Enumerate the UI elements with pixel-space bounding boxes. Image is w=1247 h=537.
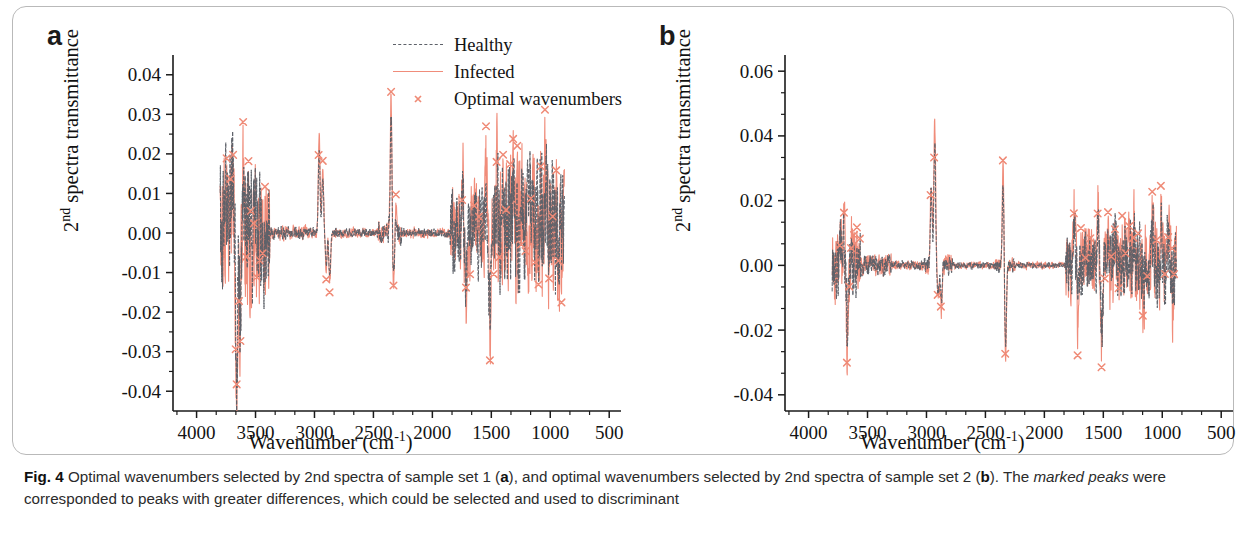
panel-a: a 0.040.030.020.010.00-0.01-0.02-0.03-0.… <box>25 13 636 456</box>
svg-text:-0.01: -0.01 <box>121 262 161 283</box>
panel-b-y-axis-title: 2nd spectra transmittance <box>672 0 695 281</box>
svg-text:-0.02: -0.02 <box>733 320 773 341</box>
svg-text:0.00: 0.00 <box>740 255 773 276</box>
svg-text:0.02: 0.02 <box>128 143 161 164</box>
dashed-line-key <box>393 38 443 52</box>
panel-b-plot: 0.060.040.020.00-0.02-0.0440003500300025… <box>637 13 1247 456</box>
cross-marker-icon <box>414 95 422 103</box>
legend-label-optimal-wavenumbers: Optimal wavenumbers <box>454 90 622 108</box>
svg-text:0.00: 0.00 <box>128 223 161 244</box>
legend-item-infected: Infected <box>393 62 622 82</box>
legend-label-healthy: Healthy <box>454 36 513 54</box>
panel-b-x-axis-title: Wavenumber (cm-1) <box>637 431 1247 454</box>
svg-text:-0.03: -0.03 <box>121 341 161 362</box>
svg-text:-0.04: -0.04 <box>121 381 161 402</box>
figure-caption: Fig. 4 Optimal wavenumbers selected by 2… <box>24 466 1229 509</box>
panel-b-chart-svg: 0.060.040.020.00-0.02-0.0440003500300025… <box>637 13 1247 456</box>
caption-text-2: ), and optimal wavenumbers selected by 2… <box>509 468 981 485</box>
caption-label: Fig. 4 <box>24 468 64 485</box>
legend-item-optimal-wavenumbers: Optimal wavenumbers <box>393 89 622 109</box>
solid-line-key <box>393 65 443 79</box>
caption-text-1: Optimal wavenumbers selected by 2nd spec… <box>68 468 500 485</box>
svg-text:-0.02: -0.02 <box>121 302 161 323</box>
svg-text:-0.04: -0.04 <box>733 384 773 405</box>
caption-emphasis: marked peaks <box>1033 468 1128 485</box>
panel-a-x-axis-title: Wavenumber (cm-1) <box>25 431 636 454</box>
caption-ref-b: b <box>980 468 989 485</box>
legend-label-infected: Infected <box>454 63 515 81</box>
cross-marker-key <box>393 92 443 106</box>
caption-ref-a: a <box>500 468 508 485</box>
svg-text:0.01: 0.01 <box>128 183 161 204</box>
caption-text-3: ). The <box>990 468 1034 485</box>
legend-item-healthy: Healthy <box>393 35 622 55</box>
svg-text:0.03: 0.03 <box>128 104 161 125</box>
figure-frame: a 0.040.030.020.010.00-0.01-0.02-0.03-0.… <box>12 6 1234 455</box>
svg-text:0.04: 0.04 <box>128 64 162 85</box>
svg-text:0.02: 0.02 <box>740 190 773 211</box>
panel-a-legend: Healthy Infected Optimal wavenumbers <box>393 35 622 109</box>
svg-text:0.04: 0.04 <box>740 125 774 146</box>
panel-b: b 0.060.040.020.00-0.02-0.04400035003000… <box>637 13 1247 456</box>
svg-text:0.06: 0.06 <box>740 61 773 82</box>
panel-a-y-axis-title: 2nd spectra transmittance <box>60 0 83 281</box>
